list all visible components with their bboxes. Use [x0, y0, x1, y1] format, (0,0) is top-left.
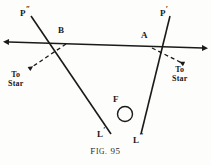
label-point-p-double-prime: P″: [20, 6, 30, 18]
to-star-right-line1: To: [172, 65, 187, 74]
dashed-sightline-b-to-star: [29, 44, 66, 69]
to-star-right-line2: Star: [172, 74, 187, 83]
label-point-f: F: [113, 95, 119, 104]
label-point-l-prime: L′: [97, 127, 105, 139]
label-point-b: B: [58, 26, 64, 35]
label-point-p-prime: P′: [160, 6, 168, 18]
to-star-left-line1: To: [8, 70, 23, 79]
label-point-l-double-prime: L″: [133, 133, 143, 145]
to-star-left-line2: Star: [8, 79, 23, 88]
label-to-star-left: To Star: [8, 70, 23, 88]
line-p-double-prime-to-l-prime: [31, 16, 111, 134]
dashed-sightline-a-to-star: [152, 48, 184, 64]
baseline-horizontal: [9, 42, 203, 48]
figure-95-diagram: P″ P′ B A F L′ L″ To Star To Star FIG. 9…: [0, 0, 211, 165]
figure-caption: FIG. 95: [0, 146, 211, 156]
label-to-star-right: To Star: [172, 65, 187, 83]
label-point-a: A: [141, 31, 148, 40]
focus-marker-circle: [118, 107, 133, 122]
